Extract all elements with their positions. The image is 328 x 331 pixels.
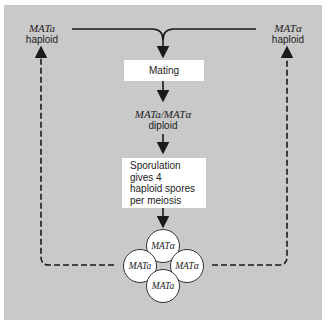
haploid-left-label: MATa haploid xyxy=(20,22,64,46)
haploid-left-text: haploid xyxy=(20,34,64,46)
haploid-left-genotype: MATa xyxy=(20,22,64,34)
return-left-arrow xyxy=(41,52,114,265)
haploid-right-label: MATα haploid xyxy=(265,22,311,46)
sporulation-line-4: per meiosis xyxy=(130,195,206,207)
haploid-right-text: haploid xyxy=(265,34,311,46)
left-merge-arrow xyxy=(72,29,163,52)
right-merge-line xyxy=(163,29,256,40)
sporulation-line-1: Sporulation xyxy=(130,160,206,172)
mating-label: Mating xyxy=(149,65,179,76)
sporulation-line-3: haploid spores xyxy=(130,183,206,195)
diploid-label: MATa/MATα diploid xyxy=(118,108,208,132)
diploid-text: diploid xyxy=(118,120,208,132)
mating-box: Mating xyxy=(124,60,204,81)
haploid-right-genotype: MATα xyxy=(265,22,311,34)
return-right-arrow xyxy=(212,52,287,265)
diploid-genotype: MATa/MATα xyxy=(118,108,208,120)
spore-bottom: MATa xyxy=(146,269,180,303)
sporulation-line-2: gives 4 xyxy=(130,172,206,184)
sporulation-box: Sporulation gives 4 haploid spores per m… xyxy=(122,158,206,208)
